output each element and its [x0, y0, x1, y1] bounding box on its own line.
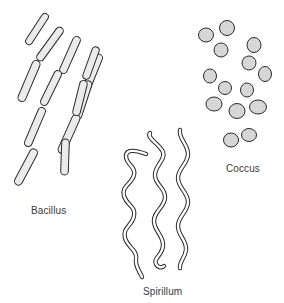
bacillus-rod [23, 106, 46, 148]
coccus-cell [247, 38, 261, 53]
bacillus-rod [99, 39, 102, 42]
coccus-label: Coccus [226, 163, 260, 174]
bacillus-rod [39, 69, 62, 106]
coccus-cell [250, 100, 267, 114]
coccus-cell [199, 28, 214, 42]
bacillus-rod [24, 12, 49, 46]
bacillus-rod [13, 147, 39, 186]
coccus-cell [241, 83, 254, 97]
spirillum-cell [149, 133, 165, 267]
coccus-cell [219, 82, 232, 95]
bacillus-group [13, 12, 104, 187]
coccus-cell [204, 69, 217, 83]
spirillum-cell [178, 130, 188, 268]
spirillum-cell [123, 151, 146, 277]
coccus-cell [242, 56, 256, 70]
coccus-group [199, 21, 272, 148]
bacillus-label: Bacillus [31, 205, 66, 216]
bacteria-shapes-figure: Bacillus Coccus Spirillum [0, 0, 284, 303]
coccus-cell [229, 104, 245, 119]
coccus-cell [220, 21, 235, 36]
spirillum-group [123, 130, 188, 277]
coccus-cell [214, 43, 228, 57]
coccus-cell [259, 67, 272, 82]
coccus-cell [206, 97, 222, 111]
spirillum-label: Spirillum [143, 286, 182, 297]
coccus-cell [242, 129, 257, 142]
coccus-cell [224, 133, 239, 147]
bacillus-rod [61, 139, 70, 175]
bacillus-rod [17, 59, 42, 103]
bacillus-rod [58, 35, 81, 75]
illustration [0, 0, 284, 303]
